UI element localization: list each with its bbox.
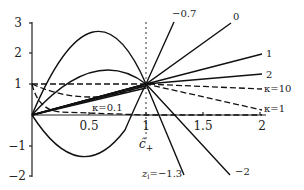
axes	[29, 22, 266, 177]
curve-z0	[32, 23, 231, 115]
tick-x-1: 1	[142, 119, 150, 133]
label-curve-2: 2	[266, 69, 272, 80]
tick-y-3: 3	[14, 16, 22, 30]
label-curve-k1: κ=1	[264, 103, 285, 114]
label-curve-m07: −0.7	[172, 8, 196, 19]
dashed-curves	[32, 84, 262, 115]
label-curve-m2: −2	[235, 166, 250, 177]
tick-y-m1: −1	[8, 139, 26, 153]
tick-x-05: 0.5	[79, 119, 98, 133]
x-axis-label: ĉ+	[139, 137, 153, 153]
curve-extra2	[32, 88, 146, 115]
label-curve-k01: κ=0.1	[92, 102, 123, 113]
curve-k01	[32, 84, 262, 115]
label-curve-k10: κ=10	[264, 83, 291, 94]
tick-y-m2: −2	[8, 169, 26, 183]
tick-y-2: 2	[14, 46, 22, 60]
tick-y-1: 1	[14, 77, 22, 91]
label-curve-1: 1	[266, 48, 272, 59]
tick-x-2: 2	[258, 119, 266, 133]
chart: 3 2 1 −1 −2 0.5 1 1.5 2 ĉ+ −0.7 0 1 2 κ=…	[0, 0, 304, 190]
label-curve-0: 0	[233, 11, 239, 22]
label-curve-m13: zi=−1.3	[141, 168, 182, 181]
tick-x-15: 1.5	[193, 119, 212, 133]
